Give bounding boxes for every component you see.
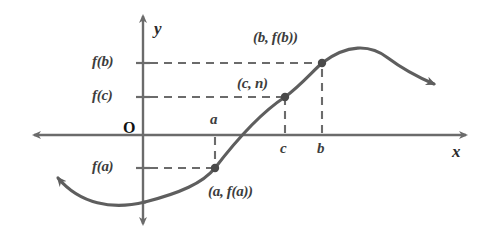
x-axis-label: x <box>452 143 460 160</box>
horizontal-guide-lines <box>150 63 320 168</box>
ivt-diagram: y x O f(b) f(c) f(a) a c b (b, f(b)) (c,… <box>0 0 480 239</box>
y-tick-label-fb: f(b) <box>92 54 113 69</box>
point-label-a: (a, f(a)) <box>208 184 253 199</box>
x-tick-label-a: a <box>210 112 217 127</box>
point-label-c: (c, n) <box>237 76 268 91</box>
point-b <box>318 59 326 67</box>
point-label-b: (b, f(b)) <box>253 30 298 45</box>
diagram-canvas <box>0 0 480 239</box>
y-tick-label-fc: f(c) <box>92 88 112 103</box>
y-axis-label: y <box>154 20 161 37</box>
point-a <box>211 164 219 172</box>
y-tick-label-fa: f(a) <box>92 159 113 174</box>
point-c <box>281 93 289 101</box>
x-tick-label-c: c <box>280 141 286 156</box>
function-curve <box>58 48 434 205</box>
origin-label: O <box>123 120 135 136</box>
x-tick-label-b: b <box>317 141 324 156</box>
